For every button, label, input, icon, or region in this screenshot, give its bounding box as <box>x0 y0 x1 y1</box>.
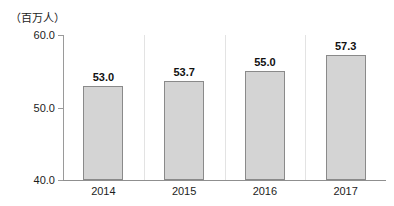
y-axis-tick-label: 40.0 <box>34 174 55 186</box>
bar-value-label: 53.0 <box>93 71 114 83</box>
y-axis-line <box>63 35 64 180</box>
plot-area: 40.050.060.0 53.053.755.057.3 2014201520… <box>63 35 386 180</box>
x-axis-category-label: 2014 <box>91 185 115 197</box>
bar-value-label: 53.7 <box>173 66 194 78</box>
y-axis-tick-mark <box>58 180 63 181</box>
y-axis-tick-label: 50.0 <box>34 102 55 114</box>
category-separator <box>144 35 145 180</box>
y-axis-tick-mark <box>58 35 63 36</box>
x-axis-category-label: 2015 <box>172 185 196 197</box>
y-axis-unit-label: （百万人） <box>10 9 65 25</box>
bar-chart: （百万人） 40.050.060.0 53.053.755.057.3 2014… <box>0 0 394 206</box>
y-axis-tick-mark <box>58 108 63 109</box>
bar <box>164 81 204 180</box>
x-axis-category-label: 2016 <box>253 185 277 197</box>
bar <box>326 55 366 180</box>
y-axis-tick-label: 60.0 <box>34 29 55 41</box>
bar <box>245 71 285 180</box>
bar <box>83 86 123 180</box>
x-axis-line <box>63 180 386 181</box>
x-axis-category-label: 2017 <box>333 185 357 197</box>
category-separator <box>225 35 226 180</box>
bar-value-label: 57.3 <box>335 40 356 52</box>
category-separator <box>305 35 306 180</box>
bar-value-label: 55.0 <box>254 56 275 68</box>
